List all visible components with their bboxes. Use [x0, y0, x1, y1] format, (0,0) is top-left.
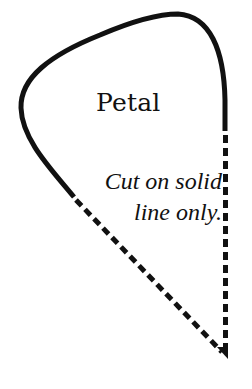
- cut-instructions: Cut on solid line only.: [105, 166, 222, 228]
- instructions-line-1: Cut on solid: [105, 166, 222, 197]
- instructions-line-2: line only.: [105, 197, 222, 228]
- petal-point: [217, 347, 228, 359]
- petal-title: Petal: [96, 88, 160, 117]
- petal-template: Petal Cut on solid line only.: [0, 0, 252, 389]
